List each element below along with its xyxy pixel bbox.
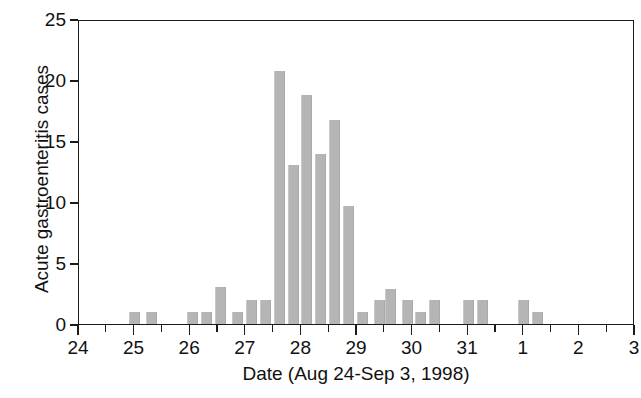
bar [402,300,413,324]
y-tick-label: 5 [22,254,66,273]
x-tick-mark [355,325,356,335]
x-tick-mark [189,325,190,335]
x-tick-mark-minor [105,325,106,332]
x-tick-mark-minor [328,325,329,332]
bar-series [79,21,633,324]
bar [187,312,198,324]
x-tick-mark-minor [439,325,440,332]
x-tick-label: 29 [336,337,376,358]
bar [274,71,285,324]
chart-figure: Acute gastroenteritis cases 0510152025 2… [0,0,641,398]
y-tick-label: 0 [22,315,66,334]
bar [429,300,440,324]
x-tick-mark [300,325,301,335]
bar [246,300,257,324]
bar [343,206,354,324]
bar [329,120,340,324]
x-tick-mark-minor [216,325,217,332]
x-tick-mark [244,325,245,335]
x-tick-label: 30 [392,337,432,358]
bar [532,312,543,324]
bar [146,312,157,324]
x-tick-mark-minor [494,325,495,332]
bar [315,154,326,324]
x-tick-mark [133,325,134,335]
y-axis-title: Acute gastroenteritis cases [31,19,53,339]
bar [288,165,299,324]
bar [357,312,368,324]
x-tick-mark [411,325,412,335]
bar [201,312,212,324]
x-tick-mark [633,325,634,335]
bar [374,300,385,324]
x-tick-label: 24 [58,337,98,358]
x-tick-label: 1 [503,337,543,358]
y-tick-mark [70,141,78,142]
x-tick-mark [77,325,78,335]
x-tick-mark-minor [383,325,384,332]
bar [232,312,243,324]
x-tick-label: 2 [558,337,598,358]
plot-area [78,20,634,325]
y-tick-label: 25 [22,10,66,29]
bar [129,312,140,324]
x-axis-title: Date (Aug 24-Sep 3, 1998) [78,363,634,385]
y-tick-mark [70,80,78,81]
bar [385,289,396,324]
x-tick-mark [467,325,468,335]
y-tick-label: 10 [22,193,66,212]
y-tick-label: 15 [22,132,66,151]
y-tick-label: 20 [22,71,66,90]
bar [301,95,312,324]
x-tick-mark-minor [272,325,273,332]
x-tick-mark-minor [606,325,607,332]
x-tick-mark [578,325,579,335]
y-tick-mark [70,263,78,264]
bar [477,300,488,324]
x-tick-label: 31 [447,337,487,358]
x-tick-label: 27 [225,337,265,358]
x-tick-label: 26 [169,337,209,358]
bar [415,312,426,324]
x-tick-mark-minor [550,325,551,332]
bar [463,300,474,324]
bar [260,300,271,324]
x-tick-label: 25 [114,337,154,358]
x-tick-label: 28 [280,337,320,358]
x-tick-label: 3 [614,337,641,358]
bar [215,287,226,324]
y-tick-mark [70,19,78,20]
x-tick-mark [522,325,523,335]
y-tick-mark [70,202,78,203]
bar [518,300,529,324]
x-tick-mark-minor [161,325,162,332]
